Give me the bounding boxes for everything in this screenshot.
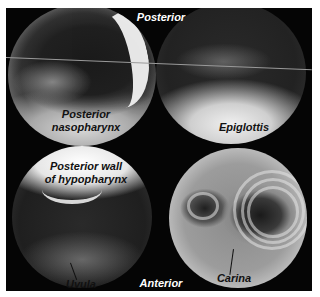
bronchus-ring	[187, 192, 219, 220]
label-uvula: Uvula	[61, 278, 101, 291]
label-line: nasopharynx	[46, 121, 126, 134]
orientation-label-anterior: Anterior	[136, 277, 186, 290]
label-line: of hypopharynx	[36, 173, 136, 186]
label-line: Posterior	[46, 108, 126, 121]
tracheal-ring	[233, 170, 307, 250]
label-posterior-nasopharynx: Posterior nasopharynx	[46, 108, 126, 134]
view-carina	[169, 148, 307, 288]
label-carina: Carina	[214, 272, 254, 285]
label-posterior-wall-hypopharynx: Posterior wall of hypopharynx	[36, 160, 136, 186]
label-epiglottis: Epiglottis	[214, 121, 274, 134]
endoscopy-figure-panel: Posterior Posterior nasopharynx Epiglott…	[6, 8, 312, 291]
orientation-label-posterior: Posterior	[136, 11, 186, 24]
label-line: Posterior wall	[36, 160, 136, 173]
